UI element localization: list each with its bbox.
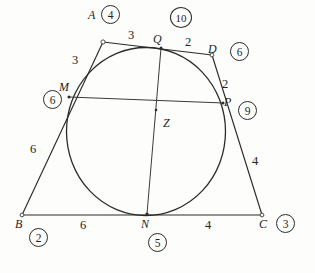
circled-number-near-P: 9 xyxy=(238,101,257,120)
circled-number-near-M: 6 xyxy=(43,90,62,109)
chord-QN xyxy=(147,48,161,214)
point-label-A: A xyxy=(88,9,95,21)
circled-number-near-Q: 10 xyxy=(170,7,192,28)
circled-number-near-A: 4 xyxy=(101,5,120,24)
side-CD xyxy=(212,55,262,215)
circled-number-near-B: 2 xyxy=(29,228,48,247)
length-label-BM: 6 xyxy=(30,143,36,156)
length-label-BN: 6 xyxy=(80,219,86,232)
length-label-NC: 4 xyxy=(205,219,211,232)
inscribed-circle xyxy=(67,48,226,216)
point-label-D: D xyxy=(208,43,217,55)
point-label-P: P xyxy=(224,96,231,108)
length-label-CP: 4 xyxy=(252,155,258,168)
point-label-M: M xyxy=(59,81,69,93)
point-label-Q: Q xyxy=(153,33,162,45)
side-AB xyxy=(22,42,103,215)
length-label-DP: 2 xyxy=(222,78,228,91)
tangent-point-N-dot xyxy=(145,212,148,215)
intersection-Z-dot xyxy=(155,109,158,112)
point-label-Z: Z xyxy=(163,117,170,129)
point-label-C: C xyxy=(259,218,267,230)
point-label-B: B xyxy=(15,218,22,230)
tangent-point-M-dot xyxy=(68,96,71,99)
circled-number-near-D: 6 xyxy=(230,42,249,61)
point-label-N: N xyxy=(141,218,149,230)
circled-number-near-C: 3 xyxy=(276,214,295,233)
vertex-A-dot xyxy=(101,40,105,44)
tangent-point-Q-dot xyxy=(160,47,163,50)
circled-number-near-N: 5 xyxy=(148,233,167,252)
length-label-AQ: 3 xyxy=(128,29,134,42)
length-label-QD: 2 xyxy=(185,36,191,49)
chord-MP xyxy=(69,97,223,103)
geometry-diagram: A B C D M N P Q Z 3 3 2 2 6 6 4 4 4 10 6… xyxy=(0,0,315,273)
length-label-AM: 3 xyxy=(72,54,78,67)
